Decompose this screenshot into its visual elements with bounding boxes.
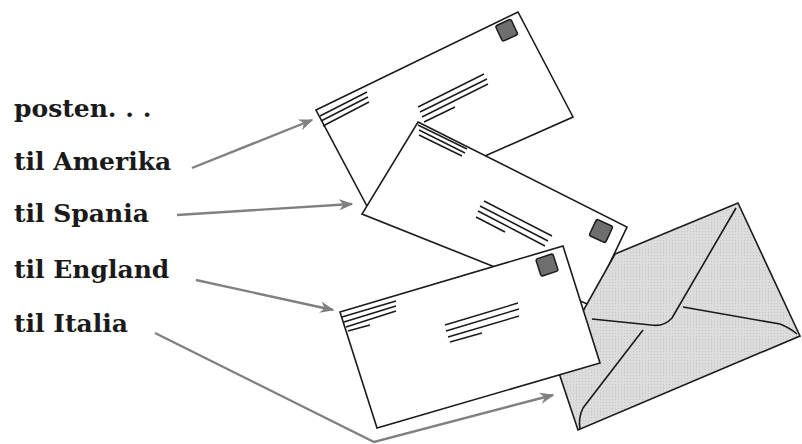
arrow-icon	[177, 204, 352, 215]
envelope-england-icon	[340, 246, 600, 428]
envelopes-illustration	[0, 0, 802, 444]
arrow-icon	[196, 280, 333, 310]
arrow-icon	[192, 120, 312, 168]
